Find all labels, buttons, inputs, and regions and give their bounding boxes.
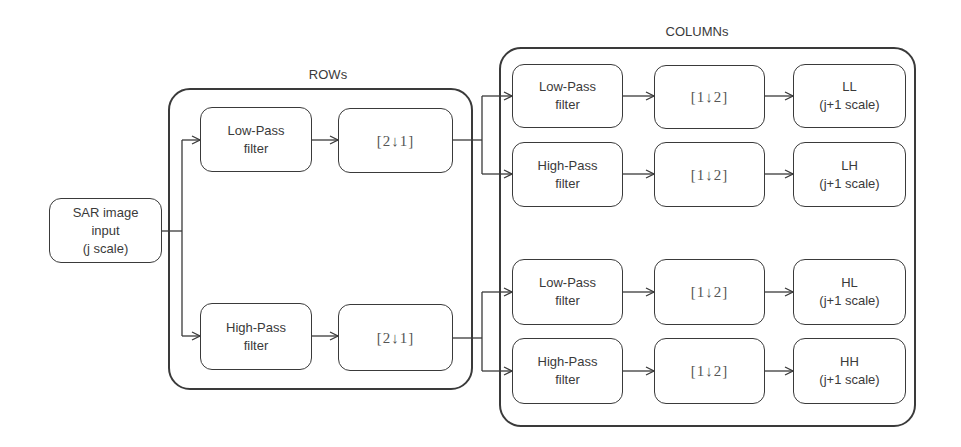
sar-input-node: SAR image input (j scale) xyxy=(49,198,162,263)
cols-downsample-node-3: [1↓2] xyxy=(654,259,765,325)
downsample-label: [1↓2] xyxy=(691,362,729,380)
output-name: LH xyxy=(841,157,858,175)
filter-word: filter xyxy=(555,175,580,193)
rows-downsample-node-1: [2↓1] xyxy=(338,108,453,173)
output-hl-node: HL (j+1 scale) xyxy=(793,259,906,325)
output-scale: (j+1 scale) xyxy=(819,292,879,310)
rows-downsample-node-2: [2↓1] xyxy=(338,304,453,371)
filter-name: Low-Pass xyxy=(539,78,596,96)
output-hh-node: HH (j+1 scale) xyxy=(793,338,906,404)
cols-downsample-node-2: [1↓2] xyxy=(654,142,765,207)
filter-word: filter xyxy=(555,96,580,114)
cols-lowpass-filter-node-2: Low-Pass filter xyxy=(512,259,623,325)
cols-highpass-filter-node-2: High-Pass filter xyxy=(512,338,623,404)
output-scale: (j+1 scale) xyxy=(819,96,879,114)
filter-name: High-Pass xyxy=(538,157,598,175)
downsample-label: [1↓2] xyxy=(691,283,729,301)
input-line-1: SAR image xyxy=(73,204,139,222)
filter-word: filter xyxy=(244,337,269,355)
filter-name: Low-Pass xyxy=(227,122,284,140)
input-line-3: (j scale) xyxy=(83,240,129,258)
cols-downsample-node-4: [1↓2] xyxy=(654,338,765,404)
filter-name: Low-Pass xyxy=(539,274,596,292)
output-name: HH xyxy=(840,353,859,371)
columns-group-label: COLUMNs xyxy=(666,24,729,39)
rows-lowpass-filter-node: Low-Pass filter xyxy=(200,107,312,172)
output-scale: (j+1 scale) xyxy=(819,175,879,193)
filter-word: filter xyxy=(244,140,269,158)
cols-downsample-node-1: [1↓2] xyxy=(654,65,765,129)
downsample-label: [1↓2] xyxy=(691,166,729,184)
cols-highpass-filter-node-1: High-Pass filter xyxy=(512,142,623,207)
downsample-label: [1↓2] xyxy=(691,88,729,106)
rows-group-label: ROWs xyxy=(309,67,347,82)
downsample-label: [2↓1] xyxy=(377,132,415,150)
filter-word: filter xyxy=(555,371,580,389)
output-ll-node: LL (j+1 scale) xyxy=(793,64,906,128)
input-line-2: input xyxy=(91,222,119,240)
filter-name: High-Pass xyxy=(226,319,286,337)
rows-highpass-filter-node: High-Pass filter xyxy=(200,303,312,370)
filter-name: High-Pass xyxy=(538,353,598,371)
output-lh-node: LH (j+1 scale) xyxy=(793,142,906,207)
output-name: LL xyxy=(842,78,856,96)
cols-lowpass-filter-node-1: Low-Pass filter xyxy=(512,64,623,128)
filter-word: filter xyxy=(555,292,580,310)
output-scale: (j+1 scale) xyxy=(819,371,879,389)
downsample-label: [2↓1] xyxy=(377,329,415,347)
output-name: HL xyxy=(841,274,858,292)
